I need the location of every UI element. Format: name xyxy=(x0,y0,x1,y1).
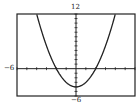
graph-plot xyxy=(0,0,136,105)
